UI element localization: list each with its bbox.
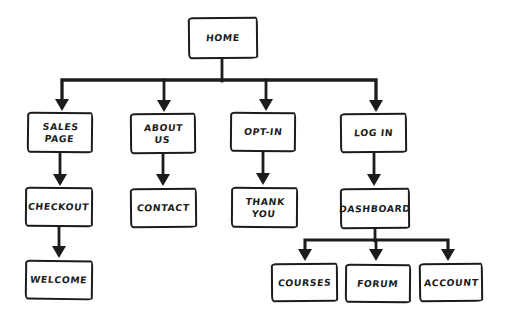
node-checkout-label: CHECKOUT (28, 201, 90, 213)
arrow-into-forum (369, 249, 383, 261)
node-sales-page-label: SALES PAGE (35, 121, 86, 145)
node-sales-page: SALES PAGE (27, 112, 93, 154)
node-welcome-label: WELCOME (30, 274, 88, 286)
node-home: HOME (188, 17, 258, 60)
arrow-into-about-us (157, 100, 171, 112)
node-log-in-label: LOG IN (353, 127, 393, 139)
arrow-into-log-in (369, 100, 383, 112)
node-account: ACCOUNT (419, 263, 483, 303)
node-home-label: HOME (206, 32, 241, 44)
node-welcome: WELCOME (25, 260, 93, 301)
arrow-into-contact (156, 174, 170, 186)
node-courses-label: COURSES (277, 276, 332, 288)
node-account-label: ACCOUNT (423, 276, 479, 288)
arrow-into-welcome (52, 246, 66, 258)
arrow-into-courses (298, 249, 312, 261)
node-about-us: ABOUT US (130, 113, 196, 155)
node-forum-label: FORUM (357, 278, 400, 290)
edge-home-children-bus (62, 80, 376, 99)
arrow-into-sales-page (55, 99, 69, 111)
node-courses: COURSES (271, 263, 338, 303)
node-forum: FORUM (345, 264, 411, 304)
node-log-in: LOG IN (340, 113, 407, 154)
node-contact-label: CONTACT (137, 202, 191, 214)
node-dashboard: DASHBOARD (340, 188, 410, 229)
node-contact: CONTACT (130, 188, 197, 229)
arrow-into-checkout (53, 174, 67, 186)
arrow-into-dashboard (367, 174, 381, 186)
node-checkout: CHECKOUT (25, 187, 93, 228)
node-about-us-label: ABOUT US (138, 122, 188, 146)
arrow-into-opt-in (259, 99, 273, 111)
node-thank-you-label: THANK YOU (239, 196, 291, 220)
node-opt-in: OPT-IN (230, 112, 296, 153)
node-dashboard-label: DASHBOARD (339, 202, 412, 214)
sitemap-diagram: HOME SALES PAGE ABOUT US OPT-IN LOG IN C… (0, 0, 512, 326)
arrow-into-account (441, 249, 455, 261)
arrow-into-thank-you (256, 173, 270, 185)
node-thank-you: THANK YOU (231, 187, 298, 228)
node-opt-in-label: OPT-IN (243, 126, 283, 138)
